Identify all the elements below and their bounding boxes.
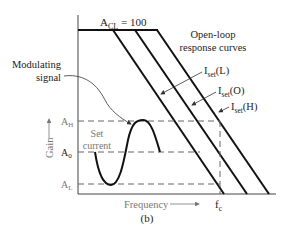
iset-l-label: Iset(L) — [204, 65, 230, 79]
a0-label: A0 — [61, 147, 72, 160]
curve-iset-h — [157, 30, 269, 194]
iset-h-label: Iset(H) — [231, 101, 258, 115]
figure-label: (b) — [141, 212, 154, 225]
open-loop-label-2: response curves — [180, 42, 247, 53]
frequency-axis-label: Frequency — [124, 199, 169, 210]
gain-frequency-diagram: ACL = 100 Open-loop response curves Modu… — [0, 0, 283, 236]
modulating-signal-leader — [64, 76, 131, 124]
iset-h-leader — [219, 107, 229, 112]
fc-label: fc — [215, 198, 223, 213]
set-current-label-1: Set — [91, 128, 104, 139]
iset-o-label: Iset(O) — [218, 85, 245, 99]
iset-o-leader — [192, 92, 216, 105]
acl-label: ACL = 100 — [100, 16, 147, 31]
iset-l-leader — [161, 72, 202, 94]
modulating-label-1: Modulating — [12, 59, 62, 70]
ah-label: AH — [61, 116, 73, 129]
modulating-label-2: signal — [36, 72, 61, 83]
curve-iset-l — [113, 30, 224, 194]
open-loop-label-1: Open-loop — [191, 29, 236, 40]
set-current-label-2: current — [83, 140, 112, 151]
al-label: AL — [61, 179, 73, 192]
gain-axis-label: Gain — [44, 137, 55, 158]
curve-iset-o — [135, 30, 247, 194]
